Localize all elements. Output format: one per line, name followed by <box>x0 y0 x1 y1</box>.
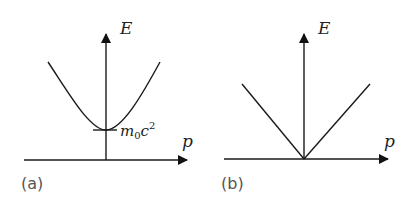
panel-b-right-line <box>304 84 370 159</box>
panel-a: E p m0c2 (a) <box>21 18 193 193</box>
panel-b-label: (b) <box>221 174 244 193</box>
panel-a-label: (a) <box>21 174 43 193</box>
panel-b-e-label: E <box>317 18 331 38</box>
energy-momentum-diagram: E p m0c2 (a) E p (b) <box>0 0 415 209</box>
panel-a-hyperbola-curve <box>48 62 160 130</box>
panel-a-p-label: p <box>182 131 193 151</box>
panel-b-left-line <box>242 84 304 159</box>
panel-b: E p (b) <box>221 18 395 193</box>
panel-a-e-label: E <box>119 18 133 38</box>
panel-b-p-label: p <box>384 131 395 151</box>
panel-a-rest-energy-label: m0c2 <box>120 120 155 141</box>
